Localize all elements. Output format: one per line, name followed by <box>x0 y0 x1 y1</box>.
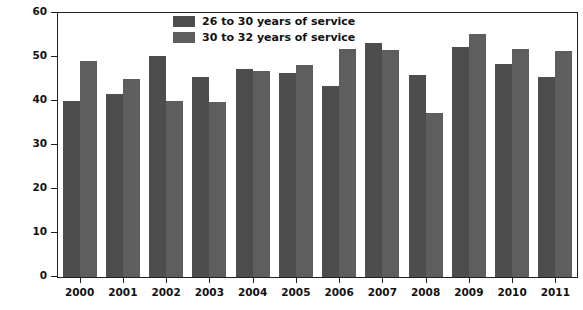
y-axis-tick-mark <box>51 144 57 145</box>
x-axis-tick-mark <box>555 278 556 283</box>
x-axis-tick-mark <box>253 278 254 283</box>
bar <box>339 49 356 277</box>
x-axis-tick-mark <box>209 278 210 283</box>
bar <box>409 75 426 277</box>
bar <box>495 64 512 277</box>
bar <box>123 79 140 277</box>
bar <box>106 94 123 277</box>
y-axis-tick-label: 10 <box>32 225 47 237</box>
x-axis-tick-mark <box>80 278 81 283</box>
legend-swatch-icon-series-1 <box>173 32 195 43</box>
bar-group <box>236 13 270 277</box>
legend: 26 to 30 years of service 30 to 32 years… <box>173 15 355 44</box>
x-axis-tick-label: 2011 <box>525 286 583 298</box>
bar-chart: Percentage of personnel remaining in the… <box>0 0 583 310</box>
bar-group <box>495 13 529 277</box>
x-axis-tick-mark <box>123 278 124 283</box>
bar-group <box>63 13 97 277</box>
y-axis-tick-label: 50 <box>32 49 47 61</box>
legend-item-series-0: 26 to 30 years of service <box>173 15 355 28</box>
bar-group <box>365 13 399 277</box>
bar <box>322 86 339 277</box>
bar <box>452 47 469 277</box>
bar <box>555 51 572 277</box>
x-axis-tick-mark <box>166 278 167 283</box>
y-axis-tick-mark <box>51 56 57 57</box>
bar <box>296 65 313 277</box>
y-axis-tick-mark <box>51 188 57 189</box>
y-axis-tick-mark <box>51 12 57 13</box>
bar <box>512 49 529 277</box>
bar-group <box>192 13 226 277</box>
bar <box>279 73 296 277</box>
legend-swatch-icon-series-0 <box>173 16 195 27</box>
bar-group <box>409 13 443 277</box>
bar <box>63 101 80 277</box>
x-axis-tick-mark <box>382 278 383 283</box>
y-axis-tick-mark <box>51 276 57 277</box>
y-axis-tick-label: 40 <box>32 93 47 105</box>
legend-label-series-0: 26 to 30 years of service <box>202 16 355 28</box>
y-axis-tick-label: 30 <box>32 137 47 149</box>
bar <box>236 69 253 277</box>
y-axis-tick-mark <box>51 232 57 233</box>
bars-layer <box>58 13 577 277</box>
bar-group <box>322 13 356 277</box>
bar <box>192 77 209 277</box>
y-axis-tick-mark <box>51 100 57 101</box>
bar <box>166 101 183 277</box>
bar <box>209 102 226 277</box>
bar <box>365 43 382 277</box>
bar <box>538 77 555 277</box>
bar <box>149 56 166 277</box>
x-axis-tick-mark <box>426 278 427 283</box>
bar <box>80 61 97 277</box>
x-axis-tick-mark <box>339 278 340 283</box>
x-axis-tick-mark <box>296 278 297 283</box>
bar-group <box>452 13 486 277</box>
bar-group <box>106 13 140 277</box>
x-axis-tick-mark <box>469 278 470 283</box>
bar <box>382 50 399 277</box>
y-axis-tick-label: 0 <box>40 269 47 281</box>
legend-item-series-1: 30 to 32 years of service <box>173 31 355 44</box>
y-axis-tick-label: 60 <box>32 5 47 17</box>
y-axis-tick-label: 20 <box>32 181 47 193</box>
bar-group <box>538 13 572 277</box>
x-axis-tick-mark <box>512 278 513 283</box>
bar <box>426 113 443 277</box>
bar <box>469 34 486 277</box>
legend-label-series-1: 30 to 32 years of service <box>202 32 355 44</box>
bar-group <box>149 13 183 277</box>
bar-group <box>279 13 313 277</box>
bar <box>253 71 270 277</box>
